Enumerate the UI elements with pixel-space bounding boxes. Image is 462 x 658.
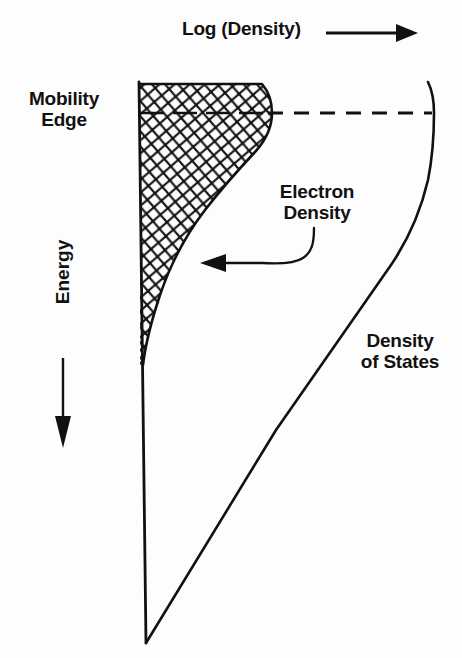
curved-arrow-left-icon [200,228,314,272]
label-log-density: Log (Density) [182,18,322,39]
arrow-down-icon [55,358,71,448]
label-energy: Energy [52,207,74,337]
electron-density-region [130,76,290,376]
electron-density-hatch-fill [130,76,290,376]
label-electron-density: Electron Density [252,181,382,224]
label-mobility-edge: Mobility Edge [0,88,128,131]
figure-root: Mobility Edge Log (Density) Electron Den… [0,0,462,658]
label-density-of-states: Density of States [336,330,462,373]
arrow-right-icon [326,24,418,42]
